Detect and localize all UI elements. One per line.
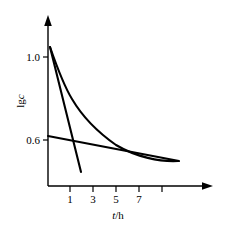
y-tick-labels-group: 1.0 0.6 — [26, 51, 40, 146]
x-tick-label-3: 3 — [90, 193, 96, 205]
x-axis-title: t/h — [112, 209, 124, 221]
steep-tangent-line — [50, 47, 81, 172]
y-axis-title: lgc — [14, 94, 26, 108]
vertical-axis-arrow-icon — [44, 15, 52, 26]
axes-group — [44, 15, 213, 190]
x-tick-label-1: 1 — [67, 193, 73, 205]
x-axis-title-unit: h — [118, 209, 124, 221]
y-axis-title-variable: c — [14, 94, 26, 99]
y-tick-label-1: 1.0 — [26, 51, 40, 63]
y-tick-marks-group — [43, 57, 48, 140]
x-tick-label-5: 5 — [113, 193, 119, 205]
y-tick-label-2: 0.6 — [26, 134, 40, 146]
shallow-tangent-line — [48, 136, 179, 161]
decay-curve — [50, 47, 178, 161]
data-series-group — [48, 47, 179, 172]
horizontal-axis-arrow-icon — [202, 182, 213, 190]
plot-svg: 1.0 0.6 1 3 5 7 t/h lgc — [0, 0, 236, 235]
x-tick-marks-group — [70, 186, 162, 192]
x-tick-label-7: 7 — [136, 193, 142, 205]
x-tick-labels-group: 1 3 5 7 — [67, 193, 142, 205]
chart-figure: 1.0 0.6 1 3 5 7 t/h lgc — [0, 0, 236, 235]
